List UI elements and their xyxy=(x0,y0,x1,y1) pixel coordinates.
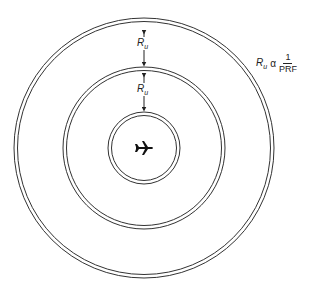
range-label-upper: Ru xyxy=(137,37,148,50)
fraction: 1 PRF xyxy=(279,52,297,75)
range-formula: Ru α 1 PRF xyxy=(256,52,297,75)
range-label-lower: Ru xyxy=(137,83,148,96)
proportional-symbol: α xyxy=(270,58,276,69)
airplane-icon xyxy=(135,141,153,155)
range-rings xyxy=(0,0,320,291)
diagram-canvas: Ru Ru Ru α 1 PRF xyxy=(0,0,320,291)
